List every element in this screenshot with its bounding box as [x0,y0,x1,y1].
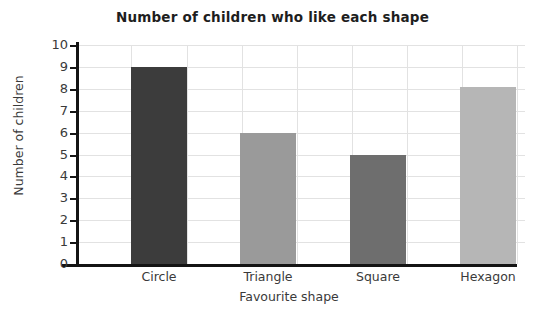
y-tick-mark [70,176,78,178]
x-category-label: Hexagon [438,269,538,284]
y-tick-label: 3 [42,191,68,204]
y-tick-label: 0 [42,257,68,270]
y-tick-label: 9 [42,60,68,73]
y-tick-mark [70,155,78,157]
gridline-vertical [187,45,188,264]
y-tick-label: 5 [42,148,68,161]
gridline-vertical [407,45,408,264]
y-axis-title: Number of children [11,56,26,216]
y-tick-label: 7 [42,104,68,117]
y-tick-label: 6 [42,126,68,139]
chart-title: Number of children who like each shape [0,9,545,25]
x-axis-line [62,264,517,267]
y-tick-label: 10 [42,38,68,51]
bar-chart: Number of children who like each shape [0,0,545,322]
y-tick-mark [70,220,78,222]
y-tick-mark [70,198,78,200]
y-tick-label: 8 [42,82,68,95]
x-category-label: Triangle [218,269,318,284]
bar-triangle[interactable] [240,133,296,264]
plot-area [79,45,525,264]
y-tick-label: 2 [42,213,68,226]
y-tick-mark [70,89,78,91]
bar-circle[interactable] [131,67,187,264]
y-tick-mark [70,242,78,244]
x-category-label: Circle [109,269,209,284]
x-category-label: Square [328,269,428,284]
gridline-horizontal [79,45,525,46]
y-tick-label: 4 [42,169,68,182]
bar-square[interactable] [350,155,406,265]
y-axis-tick-labels: 109876543210 [34,0,68,322]
y-axis-line [76,42,79,266]
gridline-vertical [297,45,298,264]
y-tick-label: 1 [42,235,68,248]
y-tick-mark [70,45,78,47]
y-tick-mark [70,133,78,135]
y-tick-mark [70,67,78,69]
gridline-vertical [517,45,518,264]
x-axis-title: Favourite shape [79,289,499,304]
bar-hexagon[interactable] [460,87,516,264]
y-tick-mark [70,111,78,113]
